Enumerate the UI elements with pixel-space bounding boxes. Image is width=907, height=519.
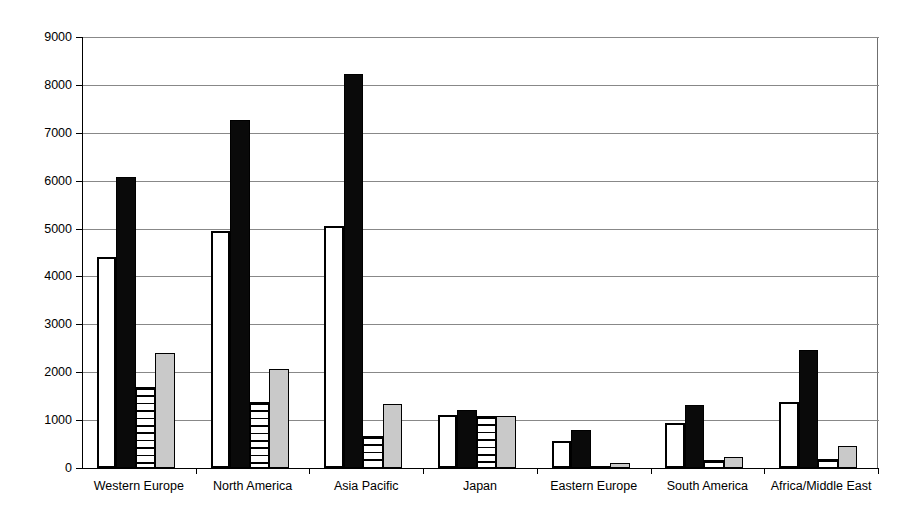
y-axis-tick-label: 7000 [14, 127, 72, 140]
bar [704, 460, 724, 468]
bar [610, 463, 630, 468]
y-axis-tick-label: 0 [14, 462, 72, 475]
y-axis-tick-mark [76, 133, 82, 134]
y-axis-tick-label: 6000 [14, 175, 72, 188]
bar [724, 457, 744, 468]
y-axis-tick-label: 9000 [14, 31, 72, 44]
bar [552, 441, 572, 468]
bar [250, 402, 270, 468]
bar-group [538, 37, 652, 468]
x-axis-tick-mark [196, 469, 197, 474]
bar [591, 466, 611, 468]
y-axis-tick-mark [76, 85, 82, 86]
bar [211, 231, 231, 468]
y-axis-tick-mark [76, 181, 82, 182]
x-axis-tick-mark [423, 469, 424, 474]
y-axis-tick-mark [76, 372, 82, 373]
y-axis-tick-mark [76, 420, 82, 421]
y-axis-tick-label: 1000 [14, 414, 72, 427]
bar [136, 387, 156, 468]
x-axis-tick-mark [878, 469, 879, 474]
bar-group [197, 37, 311, 468]
bar-group [424, 37, 538, 468]
bar [363, 436, 383, 468]
bar [571, 430, 591, 468]
bar [324, 226, 344, 468]
x-axis-tick-mark [764, 469, 765, 474]
x-axis-tick-mark [309, 469, 310, 474]
y-axis-tick-label: 5000 [14, 223, 72, 236]
bar [383, 404, 403, 468]
x-axis-category-label: Africa/Middle East [754, 479, 888, 493]
bar-group [83, 37, 197, 468]
bar-group [765, 37, 879, 468]
y-axis-tick-label: 2000 [14, 366, 72, 379]
bar [269, 369, 289, 468]
bar [438, 415, 458, 468]
bar [477, 416, 497, 468]
y-axis-tick-label: 8000 [14, 79, 72, 92]
y-axis-tick-mark [76, 37, 82, 38]
bar [665, 423, 685, 468]
bar [838, 446, 858, 468]
y-axis-tick-mark [76, 229, 82, 230]
bar [97, 257, 117, 468]
bar [457, 410, 477, 468]
bar [799, 350, 819, 468]
y-axis-tick-mark [76, 324, 82, 325]
bar [344, 74, 364, 468]
bar [779, 402, 799, 468]
y-axis-tick-label: 4000 [14, 270, 72, 283]
y-axis-tick-mark [76, 276, 82, 277]
y-axis-tick-mark [76, 468, 82, 469]
bar [818, 459, 838, 468]
plot-area [82, 37, 879, 469]
bar [116, 177, 136, 468]
bar-group [310, 37, 424, 468]
y-axis-tick-label: 3000 [14, 318, 72, 331]
bar [685, 405, 705, 468]
bar [155, 353, 175, 468]
x-axis-tick-mark [651, 469, 652, 474]
bar-group [652, 37, 766, 468]
bar-chart: Kilo-tons 010002000300040005000600070008… [0, 0, 907, 519]
x-axis-tick-mark [537, 469, 538, 474]
bar [230, 120, 250, 468]
bar [496, 416, 516, 468]
